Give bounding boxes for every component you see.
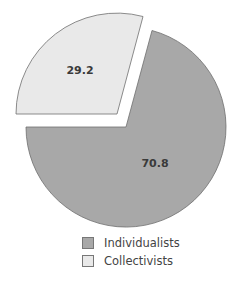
legend-swatch-individualists [82, 237, 94, 249]
label-collectivists: 29.2 [66, 64, 93, 77]
legend-swatch-collectivists [82, 255, 94, 267]
legend-label: Individualists [104, 236, 180, 250]
legend-label: Collectivists [104, 254, 173, 268]
legend-item-collectivists: Collectivists [82, 254, 173, 268]
label-individualists: 70.8 [141, 157, 168, 170]
legend-item-individualists: Individualists [82, 236, 180, 250]
